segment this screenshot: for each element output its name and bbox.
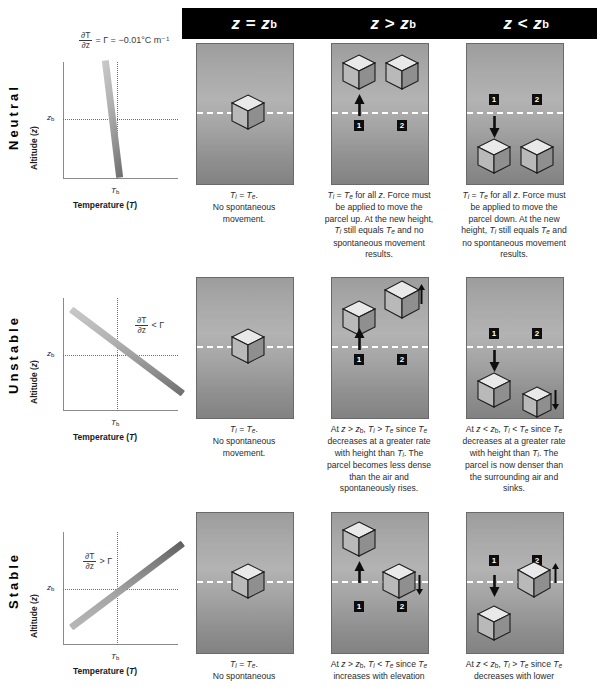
formula-rest: > Γ <box>99 556 112 566</box>
badge-1: 1 <box>489 94 499 105</box>
panel-stable-equal <box>196 512 294 654</box>
badge-2: 2 <box>397 354 407 365</box>
zb-dashed-line <box>467 112 563 114</box>
y-axis-label: Altitude (z) <box>29 70 39 170</box>
formula-denominator: ∂z <box>83 562 95 571</box>
panel-neutral-less: 1 2 <box>466 43 564 185</box>
x-axis-label: Temperature (T) <box>73 666 137 676</box>
zb-dashed-line <box>467 346 563 348</box>
formula-rest: = Γ = −0.01°C m⁻¹ <box>95 35 169 45</box>
up-arrow <box>354 94 365 116</box>
expansion-up-arrow <box>552 563 559 583</box>
badge-1: 1 <box>354 120 364 131</box>
row-label-stable: Stable <box>2 520 24 640</box>
badge-2: 2 <box>397 601 407 612</box>
caption-unstable-less: At z < zb, Ti < Te since Te decreases at… <box>459 424 569 494</box>
figure-root: z = zb z > zb z < zb Neutral zb Tb Altit… <box>0 0 604 692</box>
caption-unstable-equal: Ti = Te.No spontaneousmovement. <box>196 424 292 459</box>
formula-denominator: ∂z <box>135 326 147 335</box>
x-axis <box>63 178 178 179</box>
lapse-rate-formula: ∂T ∂z < Γ <box>135 316 164 335</box>
y-tick-zb: zb <box>47 583 54 592</box>
caption-stable-less: At z < zb, Ti > Te since Te decreases wi… <box>459 659 569 683</box>
down-arrow <box>489 350 500 372</box>
y-axis-label: Altitude (z) <box>29 538 39 638</box>
up-arrow <box>354 561 365 583</box>
tb-gridline <box>117 298 118 411</box>
graph-stable: zb Tb Altitude (z) Temperature (T) ∂T ∂z… <box>63 532 178 645</box>
formula-rest: < Γ <box>151 320 164 330</box>
caption-neutral-less: Ti = Te for all z. Force must be applied… <box>459 190 569 260</box>
zb-gridline <box>63 355 178 356</box>
caption-neutral-equal: Ti = Te.No spontaneousmovement. <box>196 190 292 225</box>
x-axis <box>63 410 178 411</box>
x-axis-label: Temperature (T) <box>73 432 137 442</box>
badge-2: 2 <box>397 120 407 131</box>
badge-1: 1 <box>354 354 364 365</box>
zb-gridline <box>63 119 178 120</box>
y-axis-label: Altitude (z) <box>29 304 39 404</box>
lapse-rate-formula: ∂T ∂z > Γ <box>83 552 112 571</box>
x-axis-label: Temperature (T) <box>73 200 137 210</box>
graph-unstable: zb Tb Altitude (z) Temperature (T) ∂T ∂z… <box>63 298 178 411</box>
y-axis <box>63 62 64 179</box>
badge-2: 2 <box>532 328 542 339</box>
badge-1: 1 <box>489 555 499 566</box>
badge-1: 1 <box>489 328 499 339</box>
down-arrow <box>489 116 500 138</box>
panel-unstable-greater: 1 2 <box>331 277 429 419</box>
badge-1: 1 <box>354 601 364 612</box>
caption-unstable-greater: At z > zb, Ti > Te since Te decreases at… <box>324 424 434 494</box>
caption-neutral-greater: Ti = Te for all z. Force must be applied… <box>324 190 434 260</box>
formula-denominator: ∂z <box>79 41 91 50</box>
x-axis <box>63 644 178 645</box>
column-header-less: z < zb <box>456 8 597 39</box>
zb-dashed-line <box>332 346 428 348</box>
column-header-greater: z > zb <box>321 8 466 39</box>
panel-stable-greater: 1 2 <box>331 512 429 654</box>
y-tick-zb: zb <box>47 349 54 358</box>
row-label-unstable: Unstable <box>2 285 24 425</box>
panel-unstable-less: 1 2 <box>466 277 564 419</box>
panel-neutral-greater: 1 2 <box>331 43 429 185</box>
zb-dashed-line <box>332 112 428 114</box>
column-header-equal: z = zb <box>182 8 327 39</box>
lapse-rate-formula: ∂T ∂z = Γ = −0.01°C m⁻¹ <box>79 31 169 50</box>
caption-stable-equal: Ti = Te.No spontaneous <box>196 659 292 683</box>
compression-down-arrow <box>416 575 423 595</box>
compression-down-arrow <box>552 390 559 410</box>
x-tick-tb: Tb <box>111 652 119 661</box>
row-label-neutral: Neutral <box>2 52 24 182</box>
caption-stable-greater: At z > zb, Ti < Te since Te increases wi… <box>324 659 434 683</box>
panel-stable-less: 1 2 <box>466 512 564 654</box>
y-tick-zb: zb <box>47 113 54 122</box>
lapse-rate-line <box>69 307 185 397</box>
graph-neutral: zb Tb Altitude (z) Temperature (T) ∂T ∂z… <box>63 62 178 179</box>
panel-neutral-equal <box>196 43 294 185</box>
panel-unstable-equal <box>196 277 294 419</box>
expansion-up-arrow <box>418 284 425 304</box>
column-header-bar: z = zb z > zb z < zb <box>182 8 597 39</box>
down-arrow <box>489 575 500 597</box>
badge-2: 2 <box>532 94 542 105</box>
up-arrow <box>354 328 365 350</box>
x-tick-tb: Tb <box>111 186 119 195</box>
x-tick-tb: Tb <box>111 418 119 427</box>
